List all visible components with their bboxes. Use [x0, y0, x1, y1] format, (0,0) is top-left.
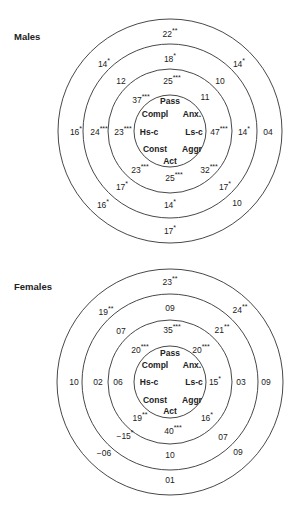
trait-label: Const [143, 144, 167, 154]
chart-title: Males [14, 31, 40, 42]
coefficient: 16* [201, 411, 213, 423]
coefficient: 23*** [131, 163, 149, 175]
coefficient: 35*** [163, 323, 181, 335]
coefficient: 24** [233, 303, 248, 315]
coefficient: 10 [232, 198, 242, 208]
trait-label: Compl [142, 109, 168, 119]
coefficient: 17* [164, 224, 176, 236]
trait-label: Ls-c [185, 127, 203, 137]
coefficient: 22** [163, 27, 178, 39]
coefficient: 01 [165, 475, 175, 485]
trait-label: Hs-c [140, 377, 159, 387]
trait-label: Anx. [183, 109, 201, 119]
trait-label: Act [163, 156, 177, 166]
coefficient: 04 [263, 127, 273, 137]
coefficient: 17* [219, 180, 231, 192]
coefficient: 47*** [210, 125, 228, 137]
trait-label: Aggr [182, 395, 203, 405]
coefficient: 09 [165, 303, 175, 313]
coefficient: 07 [116, 326, 126, 336]
circumplex-figure: Males Pass Compl Anx. Hs-c Ls-c Const Ag… [0, 0, 295, 507]
coefficient: 12 [116, 76, 126, 86]
trait-label: Act [163, 406, 177, 416]
coefficient: 20*** [192, 343, 210, 355]
trait-label: Ls-c [185, 377, 203, 387]
trait-label: Anx. [183, 360, 201, 370]
coefficient: 20*** [131, 343, 149, 355]
trait-label: Pass [160, 96, 180, 106]
coefficient: 14* [164, 198, 176, 210]
coefficient: 10 [165, 450, 175, 460]
females-chart: Females Pass Compl Anx. Hs-c Ls-c Const … [14, 269, 283, 495]
coefficient: 10 [215, 76, 225, 86]
coefficient: 21** [215, 323, 230, 335]
coefficient: 14* [98, 57, 110, 69]
coefficient: 19** [99, 305, 114, 317]
trait-label: Compl [142, 360, 168, 370]
coefficient: 18* [164, 52, 176, 64]
coefficient: 16* [70, 125, 82, 137]
trait-label: Pass [160, 348, 180, 358]
coefficient: 09 [261, 377, 271, 387]
coefficient: 14* [233, 57, 245, 69]
coefficient: 23** [163, 275, 178, 287]
coefficient: 19** [133, 411, 148, 423]
coefficient: 11 [201, 92, 210, 102]
chart-title: Females [14, 281, 52, 292]
coefficient: 06 [113, 377, 123, 387]
coefficient: 23*** [114, 125, 132, 137]
trait-label: Const [143, 395, 167, 405]
coefficient: 24*** [90, 125, 108, 137]
coefficient: 25*** [165, 171, 183, 183]
third-ring [83, 44, 257, 218]
coefficient: 17* [116, 180, 128, 192]
coefficient: 03 [236, 377, 246, 387]
coefficient: 40*** [164, 424, 182, 436]
coefficient: 07 [218, 432, 228, 442]
coefficient: 15* [209, 375, 221, 387]
coefficient: −15* [116, 429, 133, 441]
coefficient: 09 [233, 447, 243, 457]
trait-label: Hs-c [140, 127, 159, 137]
coefficient: 10 [69, 377, 79, 387]
trait-label: Aggr [182, 144, 203, 154]
coefficient: 25*** [163, 74, 181, 86]
males-chart: Males Pass Compl Anx. Hs-c Ls-c Const Ag… [14, 19, 282, 243]
coefficient: 16* [97, 198, 109, 210]
coefficient: 02 [93, 377, 103, 387]
coefficient: 14* [238, 125, 250, 137]
coefficient: −06 [97, 448, 112, 458]
